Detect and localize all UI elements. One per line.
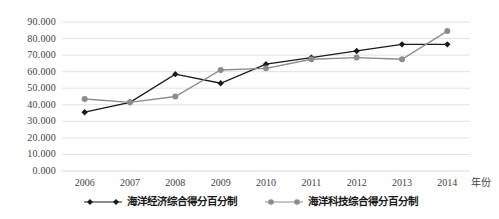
data-point-technology-2007 [127,99,133,105]
line-chart: 90.00080.00070.00060.00050.00040.00030.0… [0,0,499,219]
y-axis-tick-label: 20.000 [0,133,56,143]
data-point-technology-2012 [354,55,360,61]
data-point-economy-2006 [81,109,87,115]
y-axis-tick-label: 50.000 [0,83,56,93]
y-axis-tick-label: 80.000 [0,34,56,44]
series-line-economy [85,44,448,112]
x-axis-tick-label: 2008 [153,178,197,188]
y-axis-tick-label: 60.000 [0,67,56,77]
legend-item-technology[interactable]: 海洋科技综合得分百分制 [263,196,418,207]
data-point-economy-2012 [353,48,359,54]
data-point-technology-2010 [263,65,269,71]
x-axis-tick-label: 2010 [244,178,288,188]
y-axis-tick-label: 30.000 [0,116,56,126]
legend-label-economy: 海洋经济综合得分百分制 [127,196,237,207]
chart-legend: 海洋经济综合得分百分制 海洋科技综合得分百分制 [0,196,499,207]
data-point-technology-2008 [172,94,178,100]
y-axis-tick-label: 0.000 [0,166,56,176]
x-axis-tick-label: 2013 [380,178,424,188]
y-axis-tick-label: 70.000 [0,50,56,60]
x-axis-tick-label: 2012 [335,178,379,188]
data-point-economy-2013 [399,41,405,47]
x-axis-title: 年份 [471,178,491,188]
x-axis-tick-label: 2009 [199,178,243,188]
x-axis-tick-label: 2007 [108,178,152,188]
legend-item-economy[interactable]: 海洋经济综合得分百分制 [82,196,237,207]
y-axis-tick-label: 90.000 [0,17,56,27]
legend-marker-diamond-icon [82,197,124,207]
x-axis-tick-label: 2006 [63,178,107,188]
data-point-economy-2014 [444,41,450,47]
x-axis-tick-label: 2011 [289,178,333,188]
y-axis-tick-label: 10.000 [0,149,56,159]
legend-marker-circle-icon [263,197,305,207]
data-point-technology-2013 [399,56,405,62]
x-axis-tick-label: 2014 [425,178,469,188]
legend-label-technology: 海洋科技综合得分百分制 [308,196,418,207]
data-point-technology-2011 [308,56,314,62]
y-axis-tick-label: 40.000 [0,100,56,110]
data-point-technology-2014 [444,28,450,34]
data-point-economy-2009 [217,80,223,86]
data-point-technology-2006 [82,96,88,102]
data-point-technology-2009 [218,67,224,73]
